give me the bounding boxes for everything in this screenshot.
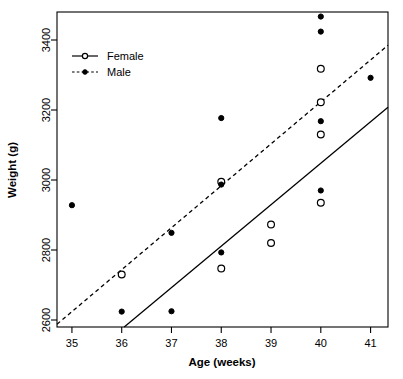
x-axis-ticks: 35363738394041 xyxy=(66,327,377,349)
x-tick-label: 36 xyxy=(116,337,128,349)
plot-canvas: 35363738394041 26002800300032003400 Age … xyxy=(0,0,403,379)
data-point-female xyxy=(218,265,225,272)
legend-item-male: Male xyxy=(72,66,131,78)
legend-item-female: Female xyxy=(72,50,144,62)
legend-marker-filled-circle xyxy=(83,70,88,75)
data-point-female xyxy=(317,99,324,106)
data-point-male xyxy=(219,182,224,187)
y-axis-title: Weight (g) xyxy=(6,142,18,198)
data-point-male xyxy=(169,230,174,235)
data-point-male xyxy=(219,115,224,120)
data-point-male xyxy=(318,14,323,19)
y-tick-label: 3000 xyxy=(40,168,52,192)
data-point-male xyxy=(368,75,373,80)
y-tick-label: 3200 xyxy=(40,98,52,122)
x-tick-label: 40 xyxy=(315,337,327,349)
data-point-female xyxy=(268,240,275,247)
x-tick-label: 35 xyxy=(66,337,78,349)
x-tick-label: 41 xyxy=(364,337,376,349)
y-tick-label: 3400 xyxy=(40,28,52,52)
x-tick-label: 39 xyxy=(265,337,277,349)
data-point-male xyxy=(169,309,174,314)
scatter-plot-figure: 35363738394041 26002800300032003400 Age … xyxy=(0,0,403,379)
y-axis-ticks: 26002800300032003400 xyxy=(40,28,57,332)
x-axis-title: Age (weeks) xyxy=(188,356,255,368)
y-tick-label: 2600 xyxy=(40,308,52,332)
data-point-female xyxy=(268,221,275,228)
legend: Female Male xyxy=(72,50,144,78)
x-tick-label: 37 xyxy=(165,337,177,349)
legend-marker-open-circle xyxy=(82,53,87,58)
data-point-male xyxy=(119,309,124,314)
legend-label-male: Male xyxy=(107,66,131,78)
legend-label-female: Female xyxy=(107,50,144,62)
data-point-female xyxy=(317,131,324,138)
data-point-male xyxy=(318,29,323,34)
fit-line-female xyxy=(124,107,388,327)
data-point-male xyxy=(318,119,323,124)
data-point-male xyxy=(69,203,74,208)
data-point-female xyxy=(317,199,324,206)
data-point-male xyxy=(318,188,323,193)
y-tick-label: 2800 xyxy=(40,238,52,262)
data-point-male xyxy=(219,250,224,255)
data-point-female xyxy=(317,65,324,72)
x-tick-label: 38 xyxy=(215,337,227,349)
data-point-female xyxy=(118,271,125,278)
